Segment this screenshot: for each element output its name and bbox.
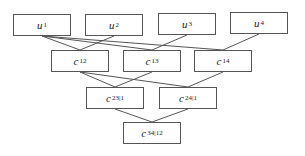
node-subscript: 12 bbox=[79, 57, 86, 65]
node-u4: u4 bbox=[230, 12, 288, 34]
node-var: c bbox=[74, 55, 79, 67]
node-u2: u2 bbox=[85, 14, 143, 36]
node-subscript: 23|1 bbox=[112, 94, 124, 102]
node-c12: c12 bbox=[51, 50, 109, 72]
node-var: c bbox=[106, 92, 111, 104]
node-var: c bbox=[141, 127, 146, 139]
edge-u3-c13 bbox=[152, 35, 187, 50]
node-subscript: 3 bbox=[189, 20, 193, 28]
edge-c24_1-c34_12 bbox=[152, 109, 188, 122]
node-u1: u1 bbox=[13, 14, 71, 36]
node-subscript: 14 bbox=[222, 57, 229, 65]
node-var: c bbox=[146, 55, 151, 67]
edge-u4-c14 bbox=[223, 34, 259, 50]
node-subscript: 4 bbox=[261, 19, 265, 27]
node-var: c bbox=[179, 92, 184, 104]
node-subscript: 1 bbox=[44, 21, 48, 29]
node-c34-given-12: c34|12 bbox=[123, 122, 181, 144]
node-subscript: 34|12 bbox=[147, 129, 162, 137]
node-subscript: 2 bbox=[116, 21, 120, 29]
edge-c12-c24_1 bbox=[80, 72, 188, 87]
node-var: u bbox=[37, 19, 43, 31]
node-c23-given-1: c23|1 bbox=[86, 87, 144, 109]
edge-c14-c24_1 bbox=[188, 72, 223, 87]
node-var: c bbox=[217, 55, 222, 67]
node-u3: u3 bbox=[158, 13, 216, 35]
node-subscript: 24|1 bbox=[185, 94, 197, 102]
node-var: u bbox=[109, 19, 115, 31]
node-c14: c14 bbox=[194, 50, 252, 72]
node-c24-given-1: c24|1 bbox=[159, 87, 217, 109]
node-subscript: 13 bbox=[151, 57, 158, 65]
node-var: u bbox=[254, 17, 260, 29]
node-var: u bbox=[182, 18, 188, 30]
edge-c23_1-c34_12 bbox=[115, 109, 152, 122]
node-c13: c13 bbox=[123, 50, 181, 72]
